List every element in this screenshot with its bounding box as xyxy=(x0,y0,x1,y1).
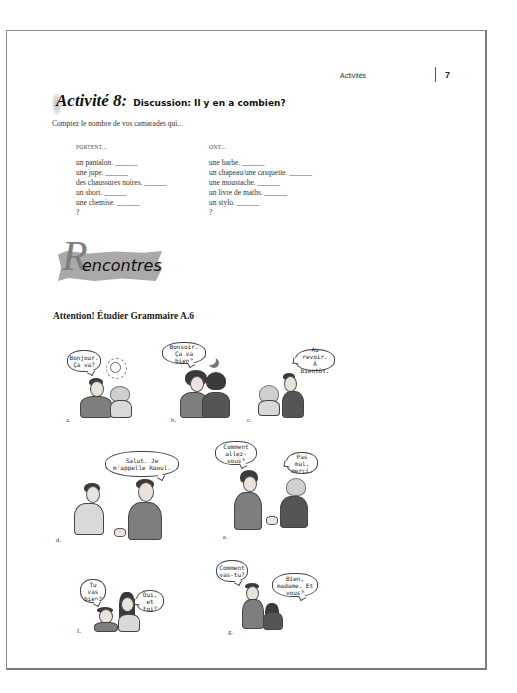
speech-bubble: Salut. Je m'appelle Raoul. xyxy=(105,451,179,477)
column-heading: PORTENT... xyxy=(76,142,167,152)
speech-bubble: Bonjour. Ça va? xyxy=(67,350,101,372)
speech-bubble: Pas mal, merci. xyxy=(286,452,318,474)
list-item: ? xyxy=(209,208,312,218)
activity-subtitle: Discussion: Il y en a combien? xyxy=(133,98,285,108)
page-number: 7 xyxy=(445,70,450,80)
activity-heading: Activité 8: Discussion: Il y en a combie… xyxy=(56,91,286,111)
list-item: une jupe. ______ xyxy=(76,168,167,178)
activity-label: Activité 8: xyxy=(56,91,127,110)
list-item: un chapeau/une casquette. ______ xyxy=(209,168,312,178)
speech-bubble: Oui, et toi? xyxy=(136,590,164,612)
speech-bubble: Bonsoir. Ça va bien? xyxy=(162,342,206,364)
list-item: une chemise. ______ xyxy=(76,198,167,208)
column-heading: ONT... xyxy=(209,142,312,152)
speech-bubble: Comment vas-tu? xyxy=(216,560,248,582)
list-item: une barbe. ______ xyxy=(209,158,312,168)
handshake xyxy=(266,516,278,525)
moon-icon xyxy=(206,355,216,365)
list-item: un pantalon. ______ xyxy=(76,158,167,168)
column-portent: PORTENT... un pantalon. ______ une jupe.… xyxy=(76,142,167,218)
list-item: un livre de maths. ______ xyxy=(209,188,312,198)
panel-label: a. xyxy=(66,416,71,423)
panel-label: g. xyxy=(228,628,233,635)
speech-bubble: Tu vas bien? xyxy=(80,579,106,603)
panel-label: d. xyxy=(56,536,61,543)
section-title: encontres xyxy=(82,256,162,275)
list-item: ? xyxy=(76,208,167,218)
speech-bubble: Au revoir. À bientôt. xyxy=(295,349,335,371)
running-head: Activités xyxy=(340,72,366,79)
panel-label: c. xyxy=(247,416,252,423)
running-head-divider xyxy=(435,67,436,82)
panel-label: b. xyxy=(171,416,176,423)
speech-bubble: Comment allez-vous? xyxy=(215,441,257,465)
activity-instruction: Comptez le nombre de vos camarades qui..… xyxy=(52,119,183,128)
panel-label: e. xyxy=(223,533,228,540)
list-item: des chaussures noires. ______ xyxy=(76,178,167,188)
panel-label: f. xyxy=(77,627,81,634)
list-item: une moustache. ______ xyxy=(209,178,312,188)
sun-icon xyxy=(110,362,121,373)
list-item: un short. ______ xyxy=(76,188,167,198)
speech-bubble: Bien, madame. Et vous? xyxy=(272,573,318,597)
column-ont: ONT... une barbe. ______ un chapeau/une … xyxy=(209,142,312,218)
list-item: un stylo. ______ xyxy=(209,198,312,208)
handshake xyxy=(114,528,126,537)
grammar-reference: Attention! Étudier Grammaire A.6 xyxy=(53,311,194,321)
section-banner-rencontres: R encontres xyxy=(52,237,170,285)
